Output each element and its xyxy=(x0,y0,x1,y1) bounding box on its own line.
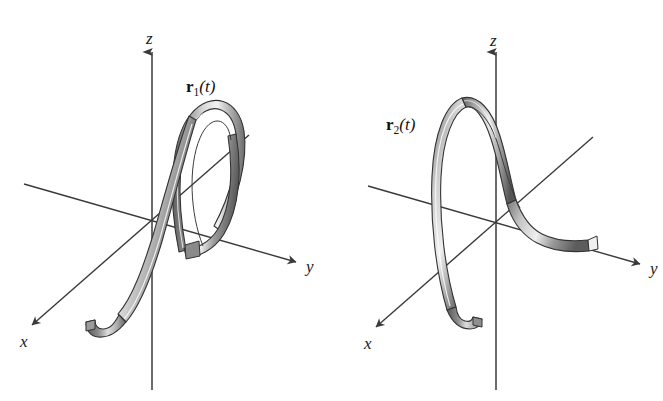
ribbon-tail-endcap-left1 xyxy=(86,320,95,331)
right-x-axis-label: x xyxy=(363,334,372,353)
left-x-axis-label: x xyxy=(19,332,28,351)
right-y-axis-label: y xyxy=(648,259,658,278)
ribbon-tail-endcap-right2 xyxy=(473,317,482,327)
right-z-axis-label: z xyxy=(489,31,497,50)
left-curve-label: r1(t) xyxy=(186,77,216,98)
ribbon-segment-front-limb-left1 xyxy=(118,116,196,322)
vector-curves-figure: z y x r1(t) xyxy=(0,0,663,401)
left-y-axis-label: y xyxy=(304,257,314,276)
right-curve-label-argument: (t) xyxy=(399,115,415,134)
right-y-axis xyxy=(368,186,640,264)
left-z-axis-label: z xyxy=(145,29,153,48)
left-curve-r1 xyxy=(86,100,245,337)
ribbon-segment-top-arch-right2 xyxy=(462,97,516,204)
ribbon-endcap-right2 xyxy=(588,236,598,251)
ribbon-segment-left-limb-right2 xyxy=(432,98,466,310)
left-curve-label-argument: (t) xyxy=(199,77,215,96)
right-x-axis xyxy=(376,137,593,327)
figure-container: z y x r1(t) xyxy=(0,0,663,401)
ribbon-endcap-left1 xyxy=(185,241,200,259)
right-curve-r2 xyxy=(432,97,598,329)
right-axes xyxy=(368,52,640,390)
right-curve-label: r2(t) xyxy=(386,115,416,136)
left-panel: z y x r1(t) xyxy=(19,29,314,390)
right-panel: z y x r2(t) xyxy=(363,31,658,390)
